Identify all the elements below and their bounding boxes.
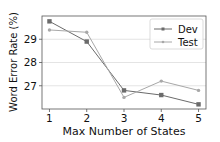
legend-test-marker-icon: [162, 41, 165, 44]
data-point-square: [159, 93, 163, 97]
x-tick-label: 4: [158, 112, 165, 124]
y-tick-label: 29: [24, 33, 37, 45]
x-tick-label: 1: [46, 112, 53, 124]
y-tick-label: 27: [24, 80, 37, 92]
data-point-square: [85, 39, 89, 43]
line-chart: 272829 12345 Max Number of States Word E…: [0, 0, 220, 142]
legend-dev-marker-icon: [162, 28, 165, 31]
x-axis-ticks: 12345: [46, 109, 202, 124]
y-tick-label: 28: [24, 56, 37, 68]
x-axis-label: Max Number of States: [63, 125, 186, 138]
x-tick-label: 3: [121, 112, 128, 124]
legend: Dev Test: [150, 19, 203, 49]
data-point-circle: [48, 28, 51, 31]
data-point-square: [196, 102, 200, 106]
y-axis-ticks: 272829: [24, 33, 42, 92]
x-tick-label: 5: [195, 112, 202, 124]
legend-dev-label: Dev: [178, 24, 198, 35]
x-tick-label: 2: [83, 112, 90, 124]
data-point-circle: [197, 89, 200, 92]
legend-test-label: Test: [177, 37, 198, 48]
data-point-square: [122, 88, 126, 92]
data-point-circle: [160, 79, 163, 82]
data-point-circle: [85, 31, 88, 34]
y-axis-label: Word Error Rate (%): [8, 12, 19, 112]
data-point-circle: [122, 96, 125, 99]
data-point-square: [47, 19, 51, 23]
